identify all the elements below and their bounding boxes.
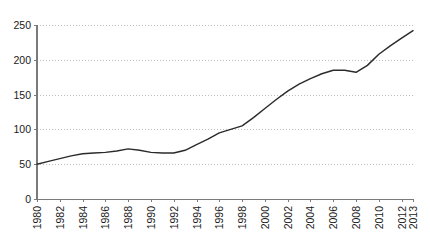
x-axis-tick-label: 2002 (282, 206, 294, 230)
x-axis-tick-label: 2008 (350, 206, 362, 230)
line-chart-plot: 050100150200250 198019821984198619881990… (0, 0, 430, 242)
chart-container: 050100150200250 198019821984198619881990… (0, 0, 430, 242)
x-axis-tick-labels: 1980198219841986198819901992199419961998… (31, 206, 419, 230)
x-axis-tick-label: 1986 (99, 206, 111, 230)
y-axis-tick-label: 100 (13, 123, 31, 135)
x-axis-tick-label: 1980 (31, 206, 43, 230)
x-axis-tick-label: 2013 (407, 206, 419, 230)
y-axis-tick-labels: 050100150200250 (13, 19, 37, 205)
x-axis-tick-label: 2004 (304, 206, 316, 230)
y-axis-tick-label: 0 (25, 193, 31, 205)
x-axis-tick-label: 2006 (327, 206, 339, 230)
data-series-line (37, 31, 413, 165)
gridlines (37, 26, 413, 165)
x-axis-tick-label: 2010 (373, 206, 385, 230)
y-axis-tick-label: 200 (13, 54, 31, 66)
y-axis-tick-label: 250 (13, 19, 31, 31)
x-axis-tick-label: 2000 (259, 206, 271, 230)
x-axis-tick-label: 1984 (77, 206, 89, 230)
x-axis-tick-label: 1996 (213, 206, 225, 230)
y-axis-tick-label: 150 (13, 89, 31, 101)
x-axis-tick-label: 1994 (191, 206, 203, 230)
x-axis-tick-label: 1982 (54, 206, 66, 230)
x-axis-tick-label: 1992 (168, 206, 180, 230)
x-axis-tick-label: 1988 (122, 206, 134, 230)
x-axis-tick-label: 1998 (236, 206, 248, 230)
x-axis-tick-label: 1990 (145, 206, 157, 230)
y-axis-tick-label: 50 (19, 158, 31, 170)
